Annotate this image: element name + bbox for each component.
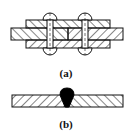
plate-right bbox=[67, 95, 123, 107]
bottom-cover-plate bbox=[26, 40, 110, 48]
figure-a-riveted-joint bbox=[11, 13, 123, 55]
figure-a-label: (a) bbox=[46, 67, 86, 79]
middle-plate-left bbox=[11, 28, 68, 40]
figure-b-label: (b) bbox=[46, 118, 86, 130]
plate-left bbox=[12, 95, 67, 107]
top-cover-plate bbox=[26, 20, 110, 28]
figure-b-welded-joint bbox=[12, 88, 123, 107]
middle-plate-right bbox=[68, 28, 123, 40]
